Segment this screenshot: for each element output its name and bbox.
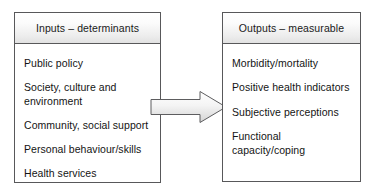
list-item: Subjective perceptions [232, 106, 352, 120]
right-arrow-icon [150, 88, 228, 126]
outputs-box-body: Morbidity/mortality Positive health indi… [223, 45, 360, 181]
list-item: Functional capacity/coping [232, 130, 352, 157]
list-item: Positive health indicators [232, 81, 352, 95]
list-item: Morbidity/mortality [232, 57, 352, 71]
list-item: Society, culture and environment [24, 81, 152, 108]
list-item: Public policy [24, 57, 152, 71]
outputs-box-header: Outputs – measurable [223, 13, 360, 44]
flow-diagram: Inputs – determinants Public policy Soci… [0, 0, 378, 195]
flow-arrow-right [150, 88, 228, 126]
inputs-box: Inputs – determinants Public policy Soci… [14, 12, 161, 183]
list-item: Health services [24, 167, 152, 181]
outputs-box: Outputs – measurable Morbidity/mortality… [222, 12, 361, 182]
inputs-box-title: Inputs – determinants [36, 22, 139, 34]
inputs-box-header: Inputs – determinants [15, 13, 160, 44]
list-item: Community, social support [24, 119, 152, 133]
list-item: Personal behaviour/skills [24, 143, 152, 157]
inputs-box-body: Public policy Society, culture and envir… [15, 45, 160, 182]
outputs-box-title: Outputs – measurable [239, 22, 344, 34]
